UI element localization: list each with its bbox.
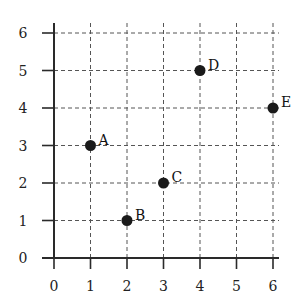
scatter-chart: 0123456 0123456 ABCDE [0,0,305,308]
data-points: ABCDE [85,57,291,227]
x-tick-label: 5 [232,278,241,294]
y-tick-label: 5 [19,63,28,79]
y-tick-label: 6 [19,25,28,41]
point-marker-icon [195,65,206,76]
data-point-c: C [158,169,182,189]
y-axis-ticks: 0123456 [19,25,54,266]
y-tick-label: 4 [19,100,28,116]
point-marker-icon [158,178,169,189]
point-marker-icon [85,140,96,151]
point-label: D [208,57,219,73]
x-tick-label: 2 [123,278,132,294]
data-point-a: A [85,132,110,152]
x-axis-ticks: 0123456 [50,258,278,294]
data-point-b: B [122,207,146,227]
point-label: E [281,94,291,110]
y-tick-label: 0 [19,250,28,266]
point-label: A [98,132,110,148]
grid-lines [54,23,279,258]
x-tick-label: 6 [269,278,278,294]
point-marker-icon [268,103,279,114]
y-tick-label: 1 [19,213,28,229]
data-point-e: E [268,94,292,114]
y-tick-label: 2 [19,175,28,191]
data-point-d: D [195,57,220,77]
x-tick-label: 4 [196,278,205,294]
axes [42,23,279,258]
x-tick-label: 1 [86,278,95,294]
point-label: C [172,169,183,185]
x-tick-label: 0 [50,278,59,294]
y-tick-label: 3 [19,138,28,154]
point-label: B [135,207,145,223]
x-tick-label: 3 [159,278,168,294]
point-marker-icon [122,215,133,226]
